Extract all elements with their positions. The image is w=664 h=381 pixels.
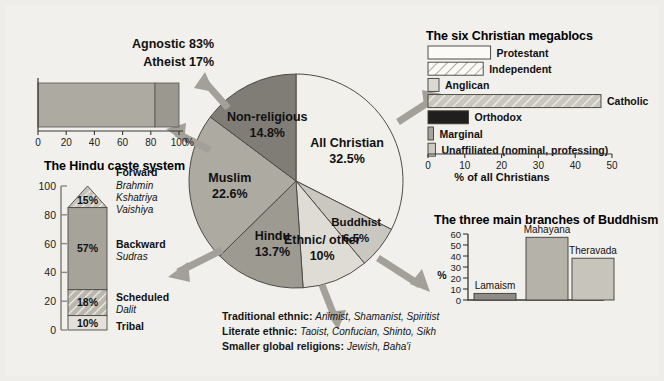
agnostic-bar-segment: [38, 83, 155, 127]
agnostic-tick-label: 60: [117, 137, 129, 148]
megabloc-label-marginal: Marginal: [440, 128, 483, 140]
caste-tick-label: 80: [44, 209, 56, 221]
pie-label-hindu: Hindu: [255, 229, 290, 243]
megablocs-tick-label: 10: [459, 160, 471, 171]
megablocs-tick-label: 0: [425, 160, 431, 171]
caste-tick-label: 60: [44, 238, 56, 250]
atheist-label: Atheist 17%: [143, 55, 214, 69]
pie-label-ethnic-other: Ethnic/ other: [284, 233, 361, 247]
note-label-literate: Literate ethnic:: [222, 325, 297, 337]
agnostic-axis-ticks: 020406080100: [35, 131, 188, 148]
megabloc-label-independent: Independent: [489, 63, 552, 75]
pie-value-non-religious: 14.8%: [250, 126, 285, 140]
buddhism-label-mahayana: Mahayana: [524, 224, 571, 235]
megabloc-bar-anglican: [428, 78, 439, 91]
caste-sub-kshatriya: Kshatriya: [116, 192, 158, 203]
caste-sub-dalit: Dalit: [116, 304, 137, 315]
note-row-smaller: Smaller global religions: Jewish, Baha'i: [222, 339, 522, 354]
pie-label-buddhist: Buddhist: [331, 216, 381, 228]
megabloc-label-catholic: Catholic: [607, 95, 649, 107]
note-value-smaller: Jewish, Baha'i: [347, 341, 411, 352]
buddhism-bar-mahayana: [526, 237, 568, 300]
megabloc-bar-independent: [428, 62, 483, 75]
note-label-traditional: Traditional ethnic:: [222, 310, 312, 322]
pie-value-all-christian: 32.5%: [329, 152, 364, 166]
note-label-smaller: Smaller global religions:: [222, 340, 344, 352]
megablocs-tick-label: 20: [496, 160, 508, 171]
buddhism-tick-label: 30: [450, 262, 461, 273]
note-value-literate: Taoist, Confucian, Shinto, Sikh: [300, 326, 436, 337]
caste-tick-label: 100: [38, 180, 56, 192]
agnostic-label: Agnostic 83%: [132, 37, 214, 51]
hindu-caste-chart: The Hindu caste system 100806040200 15% …: [20, 158, 220, 358]
megablocs-tick-label: 30: [533, 160, 545, 171]
buddhism-y-label: %: [437, 269, 447, 281]
caste-tick-label: 20: [44, 295, 56, 307]
megablocs-tick-label: 40: [570, 160, 582, 171]
agnostic-tick-label: 80: [145, 137, 157, 148]
caste-chart-title: The Hindu caste system: [44, 159, 185, 173]
megablocs-axis-caption: % of all Christians: [454, 171, 549, 183]
buddhism-axis-ticks: 0102030405060: [450, 229, 468, 306]
pie-label-all-christian: All Christian: [310, 136, 384, 150]
caste-sub-brahmin: Brahmin: [116, 180, 154, 191]
megabloc-bar-catholic: [428, 95, 601, 108]
caste-sub-sudras: Sudras: [116, 251, 148, 262]
pie-value-hindu: 13.7%: [255, 245, 290, 259]
atheist-bar-segment: [155, 83, 179, 127]
buddhism-tick-label: 20: [450, 273, 461, 284]
megabloc-bar-orthodox: [428, 111, 469, 124]
megablocs-tick-label: 50: [606, 160, 618, 171]
buddhism-tick-label: 60: [450, 229, 461, 240]
megablocs-chart-title: The six Christian megablocs: [426, 29, 593, 43]
caste-axis-ticks: 100806040200: [38, 180, 67, 336]
megablocs-axis-ticks: 01020304050: [425, 154, 618, 171]
megabloc-label-anglican: Anglican: [445, 79, 489, 91]
agnostic-tick-label: 20: [61, 137, 73, 148]
buddhism-bar-theravada: [572, 258, 614, 300]
caste-tick-label: 40: [44, 266, 56, 278]
caste-value-backward: 57%: [77, 242, 99, 254]
megabloc-label-protestant: Protestant: [497, 47, 549, 59]
caste-label-tribal: Tribal: [116, 320, 144, 332]
pie-label-non-religious: Non-religious: [227, 110, 308, 124]
caste-label-backward: Backward: [116, 238, 166, 250]
megabloc-label-orthodox: Orthodox: [475, 111, 522, 123]
buddhism-tick-label: 40: [450, 251, 461, 262]
caste-value-scheduled: 18%: [77, 296, 99, 308]
agnostic-atheist-chart: Agnostic 83% Atheist 17% 020406080100 %: [18, 36, 218, 151]
religion-notes-block: Traditional ethnic: Animist, Shamanist, …: [222, 309, 522, 354]
caste-sub-vaishiya: Vaishiya: [116, 204, 154, 215]
megabloc-bar-protestant: [428, 46, 491, 59]
caste-value-tribal: 10%: [77, 317, 99, 329]
megabloc-bar-marginal: [428, 127, 434, 140]
agnostic-axis-unit: %: [185, 137, 194, 148]
caste-tick-label: 0: [50, 324, 56, 336]
caste-value-forward: 15%: [77, 194, 99, 206]
buddhism-label-theravada: Theravada: [569, 245, 617, 256]
caste-label-scheduled: Scheduled: [116, 291, 169, 303]
buddhism-bar-lamaism: [474, 293, 516, 300]
buddhism-tick-label: 0: [456, 295, 461, 306]
note-row-literate: Literate ethnic: Taoist, Confucian, Shin…: [222, 324, 522, 339]
buddhism-tick-label: 50: [450, 240, 461, 251]
note-row-traditional: Traditional ethnic: Animist, Shamanist, …: [222, 309, 522, 324]
caste-label-forward: Forward: [116, 166, 157, 178]
buddhism-tick-label: 10: [450, 284, 461, 295]
pie-value-ethnic-other: 10%: [310, 249, 335, 263]
agnostic-tick-label: 40: [89, 137, 101, 148]
agnostic-tick-label: 0: [35, 137, 41, 148]
christian-megablocs-chart: The six Christian megablocs ProtestantIn…: [424, 26, 656, 186]
note-value-traditional: Animist, Shamanist, Spiritist: [315, 311, 439, 322]
buddhism-label-lamaism: Lamaism: [475, 280, 516, 291]
